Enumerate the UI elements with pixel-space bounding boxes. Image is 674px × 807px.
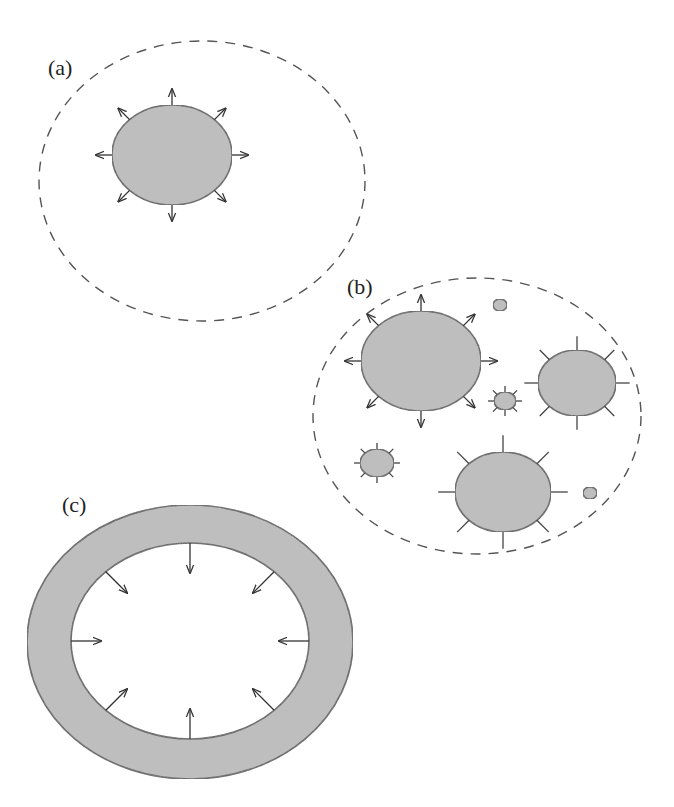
tick-mark (513, 407, 517, 411)
growth-arrow-icon (214, 108, 225, 119)
particle-body (494, 392, 516, 410)
inward-arrow-icon (253, 572, 274, 593)
inward-arrow-icon (253, 689, 274, 710)
particle (493, 299, 507, 311)
growth-arrow-icon (463, 314, 474, 325)
particle (438, 435, 568, 549)
growth-arrow-icon (367, 314, 378, 325)
tick-mark (493, 390, 497, 394)
tick-mark (540, 350, 550, 360)
tick-mark (540, 406, 550, 416)
particle-body (455, 452, 551, 532)
tick-mark (457, 520, 469, 532)
panel-c: (c) (27, 492, 353, 779)
inward-arrow-icon (106, 572, 127, 593)
particle-body (112, 105, 232, 205)
growth-arrow-icon (367, 396, 378, 407)
tick-mark (457, 452, 469, 464)
particle (583, 487, 597, 499)
particle (345, 295, 497, 427)
tick-mark (537, 520, 549, 532)
tick-mark (389, 473, 393, 477)
particle (354, 443, 400, 483)
tick-mark (537, 452, 549, 464)
panel-b-label: (b) (347, 274, 373, 299)
panel-a-particles (96, 89, 248, 221)
growth-arrow-icon (463, 396, 474, 407)
diagram-canvas: (a) (b) (c) (0, 0, 674, 807)
tick-mark (361, 473, 365, 477)
inward-arrow-icon (106, 689, 127, 710)
particle (524, 336, 629, 429)
growth-arrow-icon (118, 190, 129, 201)
particle-body (360, 449, 394, 477)
tick-mark (493, 407, 497, 411)
tick-mark (389, 449, 393, 453)
panel-c-label: (c) (62, 492, 86, 517)
panel-c-ring (27, 505, 353, 779)
growth-arrow-icon (214, 190, 225, 201)
growth-arrow-icon (118, 108, 129, 119)
particle-body (361, 311, 481, 411)
tick-mark (605, 406, 615, 416)
particle-body (583, 487, 597, 499)
panel-a-label: (a) (48, 55, 72, 80)
panel-b-particles (345, 295, 630, 549)
panel-a: (a) (39, 41, 365, 321)
tick-mark (513, 390, 517, 394)
tick-mark (605, 350, 615, 360)
particle-body (493, 299, 507, 311)
particle-body (538, 350, 616, 416)
tick-mark (361, 449, 365, 453)
panel-b: (b) (313, 274, 641, 554)
particle (488, 386, 522, 416)
particle (96, 89, 248, 221)
